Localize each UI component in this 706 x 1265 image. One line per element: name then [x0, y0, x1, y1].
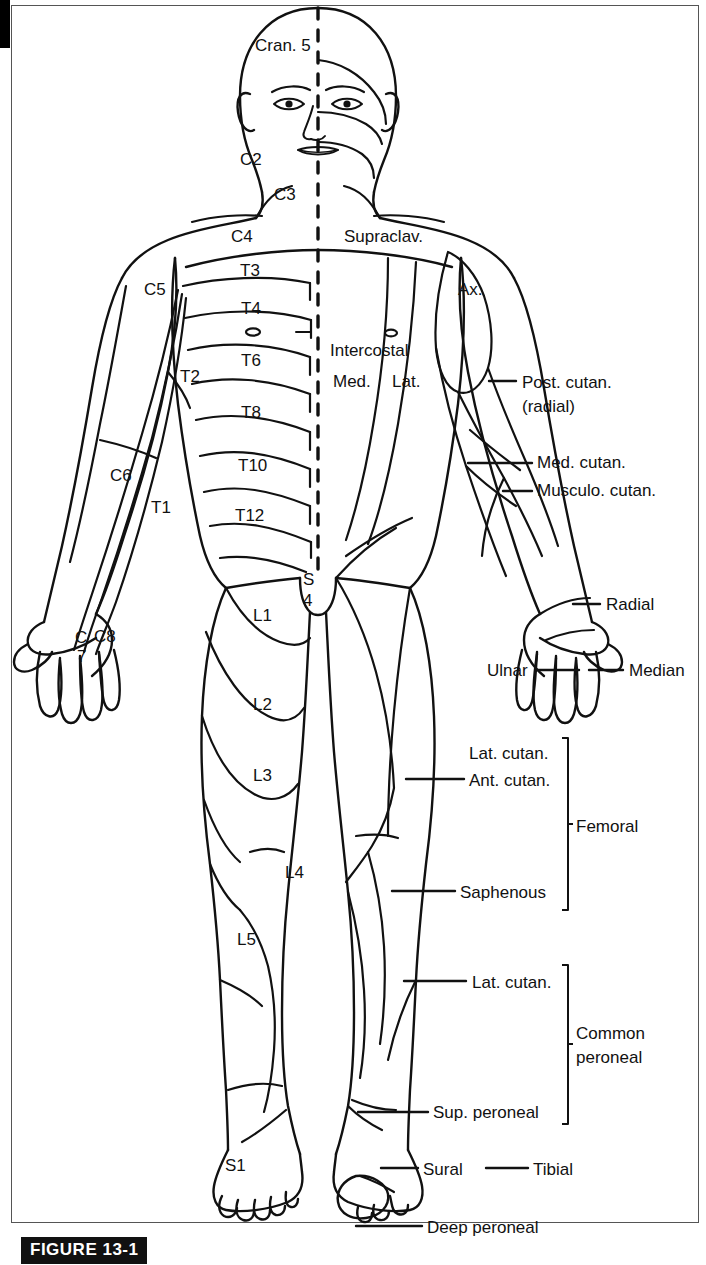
- nerve-label-lat-cutan-leg: Lat. cutan.: [472, 974, 551, 992]
- dermatome-label-t3: T3: [240, 262, 260, 280]
- dermatome-label-s1: S1: [225, 1157, 246, 1175]
- dermatome-label-l4: L4: [285, 864, 304, 882]
- dermatome-label-l5: L5: [237, 931, 256, 949]
- dermatome-label-t6: T6: [241, 352, 261, 370]
- dermatome-label-t8: T8: [241, 404, 261, 422]
- common-peroneal-bracket: [562, 965, 568, 1124]
- dermatome-label-c5: C5: [144, 281, 166, 299]
- nerve-label-ant-cutan: Ant. cutan.: [469, 772, 550, 790]
- dermatome-label-c8: C8: [94, 628, 116, 646]
- nerve-label-supraclav: Supraclav.: [344, 228, 423, 246]
- nerve-label-sup-peroneal: Sup. peroneal: [433, 1104, 539, 1122]
- nerve-label-post-cutan: Post. cutan.: [522, 374, 612, 392]
- nerve-label-post-radial: (radial): [522, 398, 575, 416]
- nerve-label-tibial: Tibial: [533, 1161, 573, 1179]
- nerve-label-peroneal: peroneal: [576, 1049, 642, 1067]
- dermatome-label-s: S: [303, 571, 314, 589]
- nerve-label-med-cutan: Med. cutan.: [537, 454, 626, 472]
- dermatome-label-t12: T12: [235, 507, 264, 525]
- nerve-label-musculo-cutan: Musculo. cutan.: [537, 482, 656, 500]
- nerve-label-lateral: Lat.: [392, 373, 420, 391]
- dermatome-label-c6: C6: [110, 467, 132, 485]
- dermatome-label-t1: T1: [151, 499, 171, 517]
- dermatome-label-c3: C3: [274, 186, 296, 204]
- nerve-label-saphenous: Saphenous: [460, 884, 546, 902]
- dermatome-label-l1: L1: [253, 607, 272, 625]
- nipple-right: [385, 330, 397, 337]
- nipple-left: [246, 328, 260, 335]
- nerve-label-deep-peroneal: Deep peroneal: [427, 1219, 539, 1237]
- dermatome-label-c7-top: C: [75, 629, 87, 647]
- dermatome-label-t10: T10: [238, 457, 267, 475]
- dermatome-label-c7-num: 7: [77, 648, 86, 666]
- thoracic-dermatome-bands: [183, 278, 311, 572]
- nerve-label-femoral: Femoral: [576, 818, 638, 836]
- left-leg-outline: [201, 588, 310, 1221]
- nerve-label-medial: Med.: [333, 373, 371, 391]
- dermatome-label-c2: C2: [240, 151, 262, 169]
- dermatome-label-l3: L3: [253, 767, 272, 785]
- nerve-label-ulnar: Ulnar: [487, 662, 528, 680]
- nerve-label-sural: Sural: [423, 1161, 463, 1179]
- group-brackets: [562, 738, 573, 1124]
- figure-caption: FIGURE 13-1: [21, 1237, 147, 1264]
- dermatome-label-c4: C4: [231, 228, 253, 246]
- nerve-label-lat-cutan-thigh: Lat. cutan.: [469, 745, 548, 763]
- femoral-bracket: [562, 738, 568, 910]
- nerve-label-intercostal: Intercostal: [330, 342, 408, 360]
- nerve-label-radial: Radial: [606, 596, 654, 614]
- dermatome-label-t4: T4: [241, 300, 261, 318]
- nerve-label-common: Common: [576, 1025, 645, 1043]
- dermatome-label-l2: L2: [253, 696, 272, 714]
- dermatome-label-t2: T2: [180, 368, 200, 386]
- right-trunk-nerve-fields: [336, 258, 416, 578]
- trigeminal-division-lines: [318, 60, 386, 178]
- dermatome-label-s4: 4: [303, 592, 312, 610]
- nerve-label-median: Median: [629, 662, 685, 680]
- figure-page: Cran. 5 C2 C3 C4 C5 T3 T4 T6 T2 T8 C6 T1…: [0, 0, 706, 1265]
- nerve-label-axillary: Ax.: [458, 281, 483, 299]
- dermatome-label-cran5: Cran. 5: [255, 37, 311, 55]
